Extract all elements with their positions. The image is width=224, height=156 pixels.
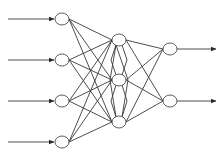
edge-input2-hidden1 [69, 40, 112, 60]
edge-input1-hidden1 [69, 19, 112, 40]
edge-input4-hidden2 [69, 80, 112, 142]
neural-network-diagram [0, 0, 224, 156]
output-node-1 [163, 43, 177, 55]
edge-input4-hidden1 [69, 40, 112, 142]
nodes-layer [55, 13, 177, 148]
hidden-node-3 [112, 116, 126, 128]
edge-hidden1-output1 [126, 40, 163, 49]
input-node-3 [55, 95, 69, 107]
edge-hidden2-output1 [126, 49, 163, 80]
hidden-node-2 [112, 74, 126, 86]
hidden-node-1 [112, 34, 126, 46]
edge-hidden2-output2 [126, 80, 163, 101]
output-node-2 [163, 95, 177, 107]
input-node-2 [55, 54, 69, 66]
input-node-1 [55, 13, 69, 25]
input-node-4 [55, 136, 69, 148]
edge-hidden1-output2 [126, 40, 163, 101]
